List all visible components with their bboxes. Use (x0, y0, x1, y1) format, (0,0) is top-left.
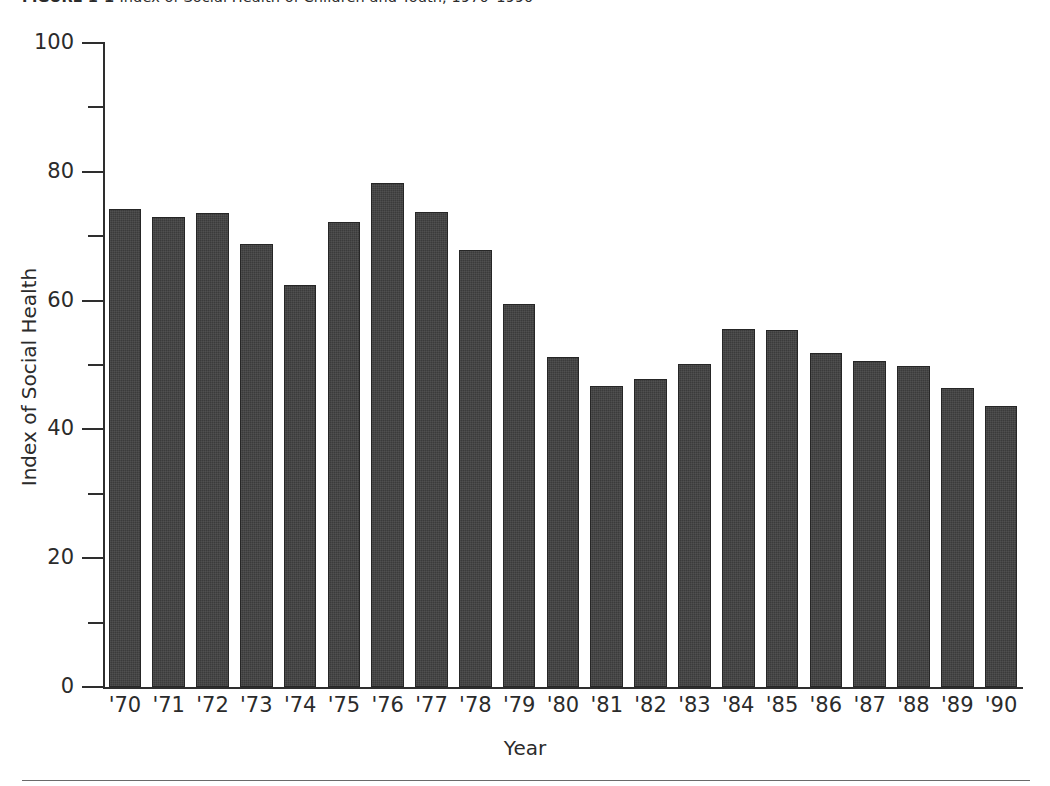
bar (590, 386, 623, 687)
bar (371, 183, 404, 687)
bar-series (103, 43, 1023, 687)
x-tick-label: '90 (979, 693, 1023, 717)
bar (415, 212, 448, 687)
x-tick-label: '74 (278, 693, 322, 717)
y-tick-major (82, 428, 105, 430)
y-tick-major (82, 300, 105, 302)
x-axis-ticks: '70'71'72'73'74'75'76'77'78'79'80'81'82'… (103, 693, 1023, 727)
y-tick-label: 20 (18, 545, 74, 569)
bar (810, 353, 843, 687)
footer-rule (22, 780, 1030, 781)
x-tick-label: '84 (716, 693, 760, 717)
y-tick-major (82, 42, 105, 44)
y-tick-major (82, 557, 105, 559)
x-tick-label: '86 (804, 693, 848, 717)
x-tick-label: '82 (629, 693, 673, 717)
bar-chart: 020406080100 Index of Social Health '70'… (0, 0, 1050, 786)
bar (897, 366, 930, 687)
x-axis-line (103, 687, 1023, 689)
x-tick-label: '87 (848, 693, 892, 717)
x-tick-label: '70 (103, 693, 147, 717)
x-tick-label: '89 (935, 693, 979, 717)
y-tick-major (82, 686, 105, 688)
x-tick-label: '76 (366, 693, 410, 717)
bar (547, 357, 580, 687)
y-axis-title: Index of Social Health (17, 217, 41, 537)
bar (722, 329, 755, 687)
x-tick-label: '88 (892, 693, 936, 717)
x-tick-label: '78 (453, 693, 497, 717)
x-axis-title: Year (0, 736, 1050, 760)
x-tick-label: '80 (541, 693, 585, 717)
bar (284, 285, 317, 688)
x-tick-label: '79 (497, 693, 541, 717)
x-tick-label: '85 (760, 693, 804, 717)
bar (503, 304, 536, 687)
bar (196, 213, 229, 687)
bar (678, 364, 711, 687)
bar (109, 209, 142, 687)
x-tick-label: '77 (410, 693, 454, 717)
x-tick-label: '71 (147, 693, 191, 717)
x-tick-label: '75 (322, 693, 366, 717)
bar (328, 222, 361, 687)
bar (853, 361, 886, 687)
x-tick-label: '83 (673, 693, 717, 717)
y-tick-major (82, 171, 105, 173)
y-tick-label: 80 (18, 159, 74, 183)
x-tick-label: '72 (191, 693, 235, 717)
x-tick-label: '81 (585, 693, 629, 717)
bar (459, 250, 492, 687)
bar (152, 217, 185, 687)
y-tick-label: 0 (18, 674, 74, 698)
bar (985, 406, 1018, 687)
bar (634, 379, 667, 687)
bar (240, 244, 273, 687)
bar (941, 388, 974, 687)
y-tick-label: 100 (18, 30, 74, 54)
bar (766, 330, 799, 687)
x-tick-label: '73 (234, 693, 278, 717)
